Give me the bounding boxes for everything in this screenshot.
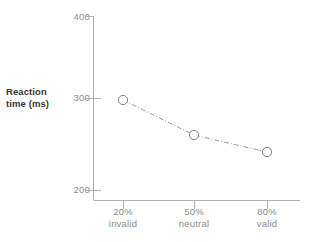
data-point-valid: [262, 147, 271, 156]
series-markers: [118, 95, 271, 156]
reaction-time-line-chart: Reaction time (ms) 400 300 200 20% inval…: [0, 0, 314, 242]
series-line-reaction-time: [123, 100, 267, 152]
plot-area: [0, 0, 314, 242]
data-point-invalid: [118, 95, 127, 104]
x-axis-ticks: [124, 200, 268, 209]
data-point-neutral: [189, 130, 198, 139]
